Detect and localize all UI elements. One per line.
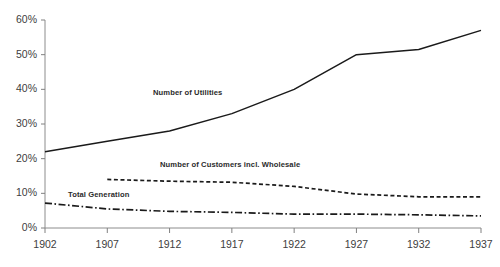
x-axis-tick-label: 1907 [85,238,129,250]
series-annotation-label: Total Generation [68,190,129,199]
x-axis-tick-label: 1932 [397,238,441,250]
chart-plot-area [0,0,500,267]
y-axis-tick-label: 0% [3,221,37,233]
chart-container: 0%10%20%30%40%50%60% 1902190719121917192… [0,0,500,267]
x-axis-tick-label: 1922 [272,238,316,250]
x-axis-tick-label: 1912 [148,238,192,250]
series-annotation-label: Number of Customers incl. Wholesale [160,160,300,169]
series-paths [45,30,481,215]
y-axis-tick-label: 30% [3,117,37,129]
series-line [45,30,481,151]
x-axis-tick-label: 1902 [23,238,67,250]
y-axis-tick-label: 20% [3,152,37,164]
y-axis-ticks [41,20,45,228]
series-line [107,179,481,196]
y-axis-tick-label: 40% [3,82,37,94]
x-axis-tick-label: 1927 [334,238,378,250]
x-axis-tick-label: 1937 [459,238,500,250]
x-axis-tick-label: 1917 [210,238,254,250]
y-axis-tick-label: 60% [3,13,37,25]
series-line [45,203,481,216]
y-axis-tick-label: 50% [3,48,37,60]
series-annotation-label: Number of Utilities [153,88,222,97]
x-axis-ticks [45,228,481,233]
y-axis-tick-label: 10% [3,186,37,198]
